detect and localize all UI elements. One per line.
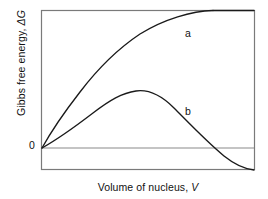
y-axis-label-symbol: ΔG bbox=[15, 10, 27, 25]
x-axis-label: Volume of nucleus, V bbox=[41, 177, 255, 195]
curve-b-label: b bbox=[185, 106, 191, 117]
figure-canvas: Gibbs free energy, ΔG 0 a b Volume of nu… bbox=[0, 0, 268, 199]
x-axis-label-prefix: Volume of nucleus, bbox=[98, 181, 192, 193]
zero-tick-label: 0 bbox=[29, 140, 35, 151]
plot-area bbox=[0, 0, 268, 199]
x-axis-label-text: Volume of nucleus, V bbox=[98, 181, 199, 193]
curve-a-label: a bbox=[185, 28, 191, 39]
y-axis-label-prefix: Gibbs free energy, bbox=[15, 26, 27, 116]
y-axis-label: Gibbs free energy, ΔG bbox=[10, 0, 32, 128]
plot-frame bbox=[42, 11, 255, 170]
x-axis-label-symbol: V bbox=[191, 181, 198, 193]
y-axis-label-text: Gibbs free energy, ΔG bbox=[15, 10, 27, 116]
